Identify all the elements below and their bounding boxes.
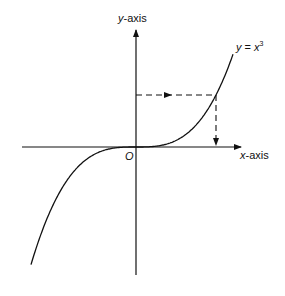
eq-exponent: 3 <box>260 40 264 47</box>
x-axis-suffix: -axis <box>246 149 269 161</box>
origin-label: O <box>125 150 134 162</box>
arrow-down-icon <box>213 138 219 146</box>
arrow-right-icon <box>164 92 172 98</box>
x-axis-label: x-axis <box>240 149 269 161</box>
y-axis-label: y-axis <box>118 12 147 24</box>
eq-sign: = <box>242 41 255 53</box>
y-axis-suffix: -axis <box>124 12 147 24</box>
curve-equation-label: y = x3 <box>236 40 263 53</box>
